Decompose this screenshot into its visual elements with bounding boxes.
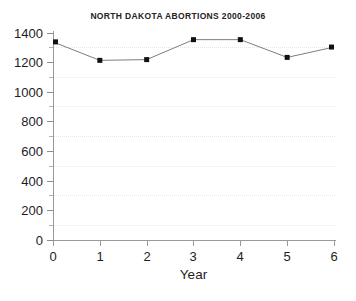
chart-title: NORTH DAKOTA ABORTIONS 2000-2006 [0, 11, 356, 21]
y-tick-label-0: 0 [36, 234, 43, 247]
chart-figure: NORTH DAKOTA ABORTIONS 2000-2006 1400 12… [0, 0, 356, 301]
data-point [97, 58, 102, 63]
x-tick-6 [334, 241, 335, 246]
x-tick-2 [147, 241, 148, 246]
data-point [285, 55, 290, 60]
data-point [144, 57, 149, 62]
y-tick-label-1200: 1200 [14, 56, 43, 69]
y-tick-label-200: 200 [21, 204, 43, 217]
x-tick-label-1: 1 [85, 250, 115, 263]
series-polyline [53, 40, 334, 61]
y-tick-label-1400: 1400 [14, 27, 43, 40]
x-tick-label-0: 0 [38, 250, 68, 263]
x-tick-5 [287, 241, 288, 246]
series-line-chart [53, 33, 334, 240]
x-tick-label-3: 3 [178, 250, 208, 263]
x-tick-4 [240, 241, 241, 246]
y-tick-label-400: 400 [21, 175, 43, 188]
x-tick-1 [100, 241, 101, 246]
data-point [53, 39, 58, 44]
y-tick-label-800: 800 [21, 115, 43, 128]
x-axis-label: Year [53, 267, 334, 282]
x-tick-label-6: 6 [319, 250, 349, 263]
y-tick-label-1000: 1000 [14, 86, 43, 99]
x-tick-label-4: 4 [225, 250, 255, 263]
plot-area [53, 33, 334, 240]
data-point [191, 37, 196, 42]
x-tick-label-5: 5 [272, 250, 302, 263]
x-tick-3 [193, 241, 194, 246]
x-tick-label-2: 2 [132, 250, 162, 263]
x-tick-0 [53, 241, 54, 246]
data-point [238, 37, 243, 42]
y-tick-label-600: 600 [21, 145, 43, 158]
data-point [329, 45, 334, 50]
